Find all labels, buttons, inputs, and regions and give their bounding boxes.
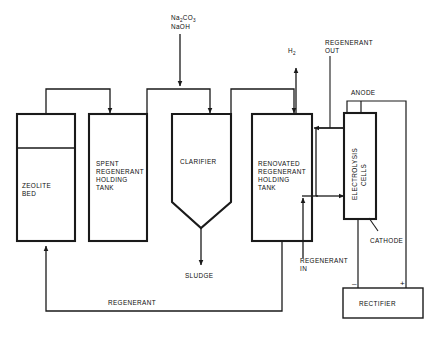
renovated-tank-label-line-2: REGENERANT — [258, 168, 306, 175]
renovated-tank-label-line-4: TANK — [258, 184, 276, 191]
electrolysis-cells-label-line-1: ELECTROLYSIS — [351, 148, 358, 200]
chemical-naoh-label: NaOH — [171, 23, 190, 30]
chemical-sub-3: 3 — [193, 18, 196, 23]
vessel-spent-regenerant-holding-tank: SPENT REGENERANT HOLDING TANK — [89, 114, 147, 241]
regenerant-return-label: REGENERANT — [108, 299, 156, 306]
process-flow-diagram: Na2CO3 NaOH ZEOLITE BED SPENT REGENERANT… — [0, 0, 441, 340]
renovated-tank-label-line-3: HOLDING — [258, 176, 290, 183]
chemical-feed-label: Na2CO3 NaOH — [171, 14, 196, 30]
pipe-spent-tank-to-clarifier — [147, 89, 210, 113]
zeolite-bed-label-line-2: BED — [22, 190, 36, 197]
negative-terminal-label: – — [352, 279, 357, 288]
regenerant-in-label-line-2: IN — [300, 265, 307, 272]
spent-tank-label-line-4: TANK — [96, 184, 114, 191]
cathode-label: CATHODE — [370, 237, 403, 244]
pipe-regenerant-return-loop — [46, 241, 282, 311]
pipe-zeolite-to-spent-tank — [46, 89, 110, 114]
sludge-label: SLUDGE — [185, 272, 213, 279]
positive-terminal-label: + — [400, 279, 405, 288]
vessel-zeolite-bed: ZEOLITE BED — [17, 114, 75, 241]
renovated-tank-label-line-1: RENOVATED — [258, 160, 300, 167]
regenerant-out-label-line-1: REGENERANT — [325, 39, 373, 46]
hydrogen-label: H2 — [288, 47, 296, 56]
rectifier-label: RECTIFIER — [359, 300, 396, 307]
zeolite-bed-label-line-1: ZEOLITE — [22, 182, 51, 189]
vessel-electrolysis-cells: ELECTROLYSIS CELLS — [344, 113, 376, 219]
vessel-rectifier: RECTIFIER — [343, 288, 423, 318]
hydrogen-subscript: 2 — [293, 51, 296, 56]
pipe-clarifier-to-renovated-tank — [231, 89, 294, 113]
spent-tank-label-line-1: SPENT — [96, 160, 119, 167]
regenerant-out-label-line-2: OUT — [325, 47, 340, 54]
clarifier-label: CLARIFIER — [180, 158, 217, 165]
electrolysis-cells-label-line-2: CELLS — [360, 164, 367, 186]
regenerant-in-label-line-1: REGENERANT — [300, 257, 348, 264]
chemical-na: Na — [171, 14, 180, 21]
vessel-clarifier: CLARIFIER — [172, 114, 231, 228]
spent-tank-label-line-2: REGENERANT — [96, 168, 144, 175]
anode-label: ANODE — [351, 89, 375, 96]
spent-tank-label-line-3: HOLDING — [96, 176, 128, 183]
svg-text:Na2CO3: Na2CO3 — [171, 14, 196, 23]
chemical-co: CO — [183, 14, 193, 21]
